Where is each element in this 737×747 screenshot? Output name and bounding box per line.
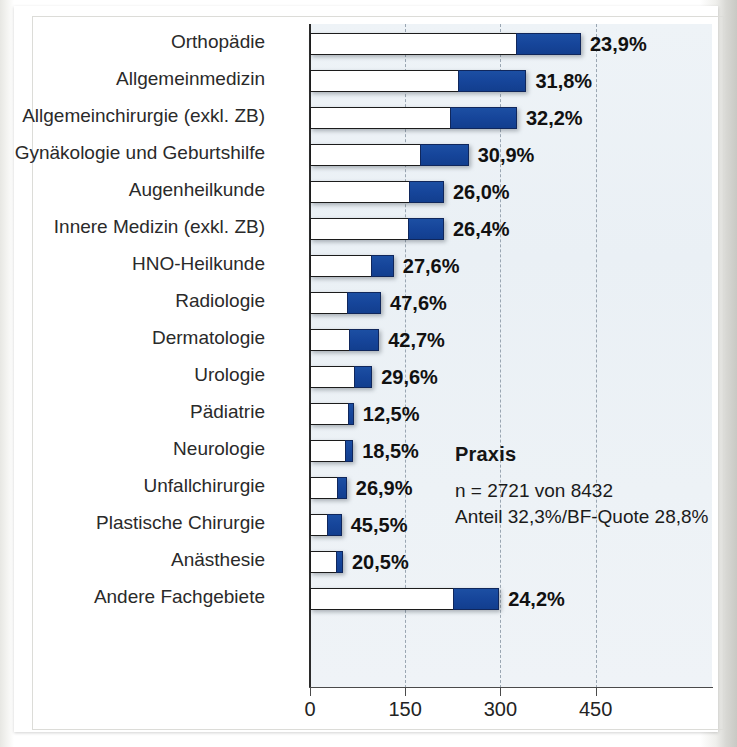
- x-axis-line: [309, 687, 713, 688]
- bar-segment-white: [310, 144, 420, 166]
- bar-segment-white: [310, 440, 345, 462]
- category-label: Allgemeinmedizin: [116, 68, 265, 90]
- stacked-bar: [310, 403, 354, 425]
- tick-label-450: 450: [579, 698, 612, 721]
- category-label: Innere Medizin (exkl. ZB): [54, 216, 265, 238]
- tickmark-0: [310, 687, 311, 696]
- bar-segment-blue: [516, 33, 581, 55]
- bar-segment-white: [310, 33, 516, 55]
- bar-value-label: 29,6%: [381, 366, 438, 388]
- bar-segment-blue: [336, 551, 343, 573]
- bar-row: Allgemeinchirurgie (exkl. ZB)32,2%: [14, 98, 718, 135]
- bar-row: Dermatologie42,7%: [14, 320, 718, 357]
- category-label: Augenheilkunde: [129, 179, 265, 201]
- bar-value-label: 12,5%: [363, 403, 420, 425]
- annotation-block: Praxis n = 2721 von 8432 Anteil 32,3%/BF…: [455, 443, 715, 532]
- category-label: Unfallchirurgie: [144, 475, 265, 497]
- bar-row: Pädiatrie12,5%: [14, 394, 718, 431]
- bar-value-label: 23,9%: [590, 33, 647, 55]
- bar-segment-blue: [337, 477, 347, 499]
- bar-row: Radiologie47,6%: [14, 283, 718, 320]
- bar-value-label: 30,9%: [478, 144, 535, 166]
- bar-segment-blue: [347, 292, 381, 314]
- tick-label-150: 150: [389, 698, 422, 721]
- tick-label-300: 300: [484, 698, 517, 721]
- stacked-bar: [310, 440, 353, 462]
- bar-segment-white: [310, 403, 348, 425]
- stacked-bar: [310, 514, 342, 536]
- category-label: Plastische Chirurgie: [96, 512, 265, 534]
- bar-value-label: 18,5%: [362, 440, 419, 462]
- bar-segment-blue: [408, 218, 444, 240]
- bar-segment-blue: [450, 107, 517, 129]
- stacked-bar: [310, 366, 372, 388]
- bar-segment-white: [310, 514, 327, 536]
- stacked-bar: [310, 218, 444, 240]
- bar-segment-white: [310, 255, 371, 277]
- bar-segment-white: [310, 329, 349, 351]
- category-label: Dermatologie: [152, 327, 265, 349]
- bar-value-label: 27,6%: [403, 255, 460, 277]
- bar-segment-blue: [409, 181, 444, 203]
- bar-row: Andere Fachgebiete24,2%: [14, 579, 718, 616]
- bar-row: Urologie29,6%: [14, 357, 718, 394]
- annotation-title: Praxis: [455, 443, 715, 466]
- bar-value-label: 26,0%: [453, 181, 510, 203]
- bar-value-label: 31,8%: [535, 70, 592, 92]
- bar-segment-white: [310, 70, 458, 92]
- tickmark-450: [596, 687, 597, 696]
- bar-segment-white: [310, 292, 347, 314]
- bar-value-label: 26,4%: [453, 218, 510, 240]
- stacked-bar: [310, 181, 444, 203]
- category-label: Allgemeinchirurgie (exkl. ZB): [22, 105, 265, 127]
- annotation-line-n: n = 2721 von 8432: [455, 480, 715, 502]
- tickmark-300: [500, 687, 501, 696]
- stacked-bar: [310, 329, 379, 351]
- bar-value-label: 45,5%: [351, 514, 408, 536]
- bar-segment-white: [310, 181, 409, 203]
- category-label: Gynäkologie und Geburtshilfe: [15, 142, 265, 164]
- bar-value-label: 42,7%: [388, 329, 445, 351]
- stacked-bar: [310, 551, 343, 573]
- bar-row: Anästhesie20,5%: [14, 542, 718, 579]
- bar-value-label: 24,2%: [508, 588, 565, 610]
- bar-value-label: 20,5%: [352, 551, 409, 573]
- bar-segment-white: [310, 366, 354, 388]
- stacked-bar: [310, 33, 581, 55]
- stacked-bar: [310, 107, 517, 129]
- annotation-line-anteil: Anteil 32,3%/BF-Quote 28,8%: [455, 506, 715, 528]
- bar-segment-white: [310, 107, 450, 129]
- bar-segment-white: [310, 588, 453, 610]
- bar-row: Augenheilkunde26,0%: [14, 172, 718, 209]
- category-label: Pädiatrie: [190, 401, 265, 423]
- bar-segment-blue: [371, 255, 394, 277]
- stacked-bar: [310, 292, 381, 314]
- bar-row: Innere Medizin (exkl. ZB)26,4%: [14, 209, 718, 246]
- category-label: HNO-Heilkunde: [132, 253, 265, 275]
- stacked-bar: [310, 588, 499, 610]
- bar-segment-white: [310, 477, 337, 499]
- figure-card: 0150300450 Orthopädie23,9%Allgemeinmediz…: [14, 6, 718, 732]
- bar-segment-blue: [354, 366, 372, 388]
- category-label: Radiologie: [175, 290, 265, 312]
- stacked-bar: [310, 70, 526, 92]
- tick-label-0: 0: [304, 698, 315, 721]
- category-label: Neurologie: [173, 438, 265, 460]
- bar-segment-blue: [458, 70, 527, 92]
- category-label: Andere Fachgebiete: [94, 586, 265, 608]
- bar-row: Allgemeinmedizin31,8%: [14, 61, 718, 98]
- stacked-bar: [310, 477, 347, 499]
- bar-segment-blue: [327, 514, 342, 536]
- tickmark-150: [405, 687, 406, 696]
- bar-segment-white: [310, 551, 336, 573]
- bar-segment-blue: [420, 144, 469, 166]
- bar-value-label: 32,2%: [526, 107, 583, 129]
- category-label: Orthopädie: [171, 31, 265, 53]
- bar-row: HNO-Heilkunde27,6%: [14, 246, 718, 283]
- bar-segment-blue: [349, 329, 379, 351]
- category-label: Anästhesie: [171, 549, 265, 571]
- bar-segment-white: [310, 218, 408, 240]
- category-label: Urologie: [194, 364, 265, 386]
- bar-row: Gynäkologie und Geburtshilfe30,9%: [14, 135, 718, 172]
- bar-value-label: 26,9%: [356, 477, 413, 499]
